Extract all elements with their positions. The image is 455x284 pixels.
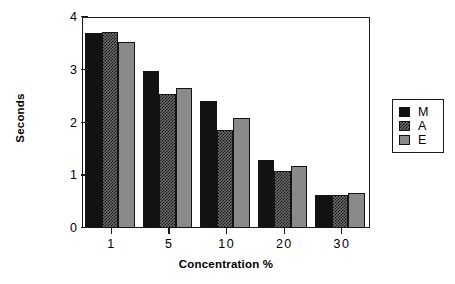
y-tick-label: 3: [70, 63, 77, 77]
bar-E-30: [348, 193, 365, 228]
legend-item-E: E: [399, 134, 443, 147]
x-tick-mark: [168, 228, 169, 234]
bar-E-5: [176, 88, 193, 228]
legend-swatch-A-icon: [399, 121, 410, 131]
bar-M-20: [258, 160, 275, 228]
legend: MAE: [392, 99, 444, 153]
x-tick-label: 1: [91, 237, 131, 251]
bar-A-1: [102, 32, 119, 228]
bar-M-5: [143, 71, 160, 228]
bar-M-30: [315, 195, 332, 228]
bar-M-10: [200, 101, 217, 228]
bars-layer: [82, 17, 370, 228]
y-tick-label: 2: [70, 116, 77, 130]
bar-A-20: [274, 171, 291, 228]
bar-E-10: [233, 118, 250, 228]
bar-E-1: [118, 42, 135, 228]
x-tick-mark: [111, 228, 112, 234]
x-tick-mark: [341, 228, 342, 234]
legend-item-A: A: [399, 120, 443, 133]
legend-swatch-M-icon: [399, 107, 410, 117]
x-tick-label: 20: [264, 237, 304, 251]
x-tick-label: 5: [148, 237, 188, 251]
y-tick-label: 0: [70, 221, 77, 235]
bar-A-30: [332, 195, 349, 228]
bar-A-10: [217, 130, 234, 228]
x-tick-mark: [284, 228, 285, 234]
legend-swatch-E-icon: [399, 135, 410, 145]
bar-A-5: [159, 94, 176, 228]
x-tick-label: 30: [321, 237, 361, 251]
legend-label: E: [418, 133, 426, 147]
y-tick-label: 4: [70, 10, 77, 24]
legend-label: M: [418, 105, 428, 119]
x-axis-title: Concentration %: [82, 258, 370, 270]
legend-item-M: M: [399, 106, 443, 119]
legend-label: A: [418, 119, 426, 133]
bar-M-1: [85, 33, 102, 228]
x-tick-mark: [226, 228, 227, 234]
x-tick-label: 10: [206, 237, 246, 251]
y-axis-title: Seconds: [14, 73, 26, 163]
y-tick-label: 1: [70, 168, 77, 182]
bar-chart-figure: Seconds 01234 15102030 Concentration % M…: [0, 0, 455, 284]
bar-E-20: [291, 166, 308, 228]
